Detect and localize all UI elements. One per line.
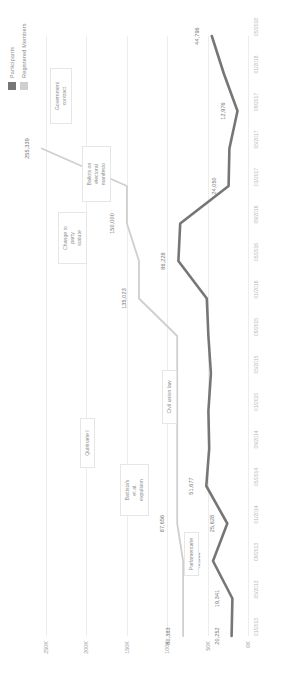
data-point-label: 19,341: [214, 590, 220, 607]
data-point-label: 25,628: [209, 515, 215, 532]
data-point-label: 80,383: [165, 627, 171, 644]
x-axis-tick-label: 09/2014: [253, 430, 259, 448]
x-axis-tick-label: 05/2017: [253, 130, 259, 148]
data-point-label: 20,252: [214, 627, 220, 644]
annotation-quirinarie-i: Quirinarie I: [80, 418, 95, 468]
annotation-battista-expulsion: Battista's et al. expulsion: [120, 464, 149, 516]
y-axis-tick-label: 200K: [83, 641, 89, 654]
x-axis-tick-label: 01/2016: [253, 280, 259, 298]
y-axis-tick-label: 150K: [124, 641, 130, 654]
x-axis-tick-label: 01/2018: [253, 55, 259, 73]
x-axis-tick-label: 09/2013: [253, 543, 259, 561]
data-point-label: 150,000: [109, 213, 115, 234]
legend-swatch-registered-members: [20, 82, 28, 90]
chart-legend: Participants Registered Members: [8, 23, 28, 90]
x-axis-tick-label: 01/2017: [253, 168, 259, 186]
data-point-label: 86,228: [160, 252, 166, 269]
chart-figure: Participants Registered Members 0K50K100…: [0, 0, 298, 682]
x-axis-tick-label: 05/2018: [253, 18, 259, 36]
x-axis-tick-label: 05/2015: [253, 355, 259, 373]
x-axis-tick-label: 09/2017: [253, 93, 259, 111]
data-point-label: 12,976: [220, 102, 226, 119]
data-point-label: 51,677: [188, 477, 194, 494]
x-axis-tick-label: 01/2013: [253, 618, 259, 636]
annotation-civil-union-law: Civil union law: [162, 370, 177, 424]
x-axis-tick-label: 05/2014: [253, 468, 259, 486]
x-axis-tick-label: 09/2015: [253, 318, 259, 336]
series-lines: [34, 36, 248, 636]
x-axis-tick-label: 05/2016: [253, 243, 259, 261]
annotation-change-party-statute: Change to party statute: [58, 212, 87, 264]
x-axis-tick-label: 09/2016: [253, 205, 259, 223]
legend-item-registered-members: Registered Members: [20, 23, 28, 90]
legend-swatch-participants: [8, 82, 16, 90]
legend-item-participants: Participants: [8, 23, 16, 90]
x-axis-tick-label: 01/2014: [253, 505, 259, 523]
annotation-government-contract: Government contract: [50, 68, 72, 124]
gridline: [248, 36, 249, 636]
data-point-label: 255,339: [24, 138, 30, 159]
data-point-label: 44,796: [194, 27, 200, 44]
x-axis-tick-label: 01/2015: [253, 393, 259, 411]
data-point-label: 24,050: [211, 177, 217, 194]
y-axis-tick-label: 250K: [43, 641, 49, 654]
legend-label-participants: Participants: [9, 47, 15, 78]
y-axis-tick-label: 0K: [245, 641, 251, 648]
legend-label-registered-members: Registered Members: [21, 23, 27, 78]
x-axis-tick-label: 05/2013: [253, 580, 259, 598]
annotation-ballots-electoral-manifesto: Ballots on electoral manifesto: [82, 146, 111, 202]
y-axis-tick-label: 50K: [205, 641, 211, 651]
data-point-label: 135,023: [121, 288, 127, 309]
annotation-parlamentarie: Parlamentarie: [184, 532, 199, 576]
data-point-label: 87,656: [159, 515, 165, 532]
plot-area: 0K50K100K150K200K250K 01/201305/201309/2…: [34, 36, 248, 636]
